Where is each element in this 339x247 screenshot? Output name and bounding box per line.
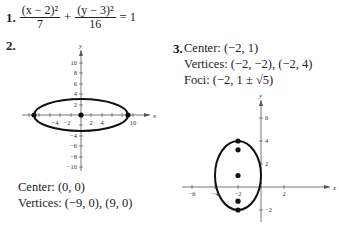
vertex-point <box>235 207 240 212</box>
y-tick-2: 2 <box>265 160 268 167</box>
y-tick-neg6: −6 <box>70 142 78 149</box>
x-axis-label: x <box>152 112 157 120</box>
center-point <box>235 173 240 178</box>
vertex-point <box>235 138 240 143</box>
x-tick-neg2: −2 <box>235 190 242 197</box>
problem-3-vertices: Vertices: (−2, −2), (−2, 4) <box>184 57 312 72</box>
y-tick-4: 4 <box>74 90 78 97</box>
x-tick-2: 2 <box>282 190 285 197</box>
y-tick-6: 6 <box>265 114 269 121</box>
y-tick-neg2: −2 <box>265 206 272 213</box>
problem-3-number: 3. <box>173 41 183 57</box>
problem-2-center: Center: (0, 0) <box>18 180 85 195</box>
x-tick-neg4: −4 <box>52 119 60 126</box>
y-tick-neg8: −8 <box>70 153 77 160</box>
y-tick-4: 4 <box>265 137 269 144</box>
vertex-point <box>31 112 36 117</box>
y-tick-6: 6 <box>74 80 78 87</box>
center-point <box>78 112 83 117</box>
problem-2-vertices: Vertices: (−9, 0), (9, 0) <box>18 196 132 211</box>
problem-3-center: Center: (−2, 1) <box>184 41 258 56</box>
y-tick-8: 8 <box>74 69 77 76</box>
problem-3-foci: Foci: (−2, 1 ± √5) <box>184 73 273 88</box>
vertex-point <box>125 112 130 117</box>
x-tick-neg6: −6 <box>189 190 197 197</box>
y-tick-2: 2 <box>74 101 77 108</box>
y-axis-label: y <box>258 92 263 100</box>
x-tick-neg2: −2 <box>64 119 71 126</box>
x-tick-2: 2 <box>89 119 92 126</box>
y-tick-neg4: −4 <box>70 132 78 139</box>
graph-problem-2: x y −4 −2 2 4 10 10 8 6 4 2 −4 −6 −8 −10 <box>0 0 170 180</box>
y-tick-neg10: −10 <box>67 163 77 170</box>
x-axis-label: x <box>332 184 337 192</box>
y-axis-label: y <box>78 42 83 50</box>
focus-point <box>235 147 240 152</box>
y-tick-10: 10 <box>71 59 78 66</box>
x-tick-10: 10 <box>130 119 137 126</box>
x-tick-4: 4 <box>100 119 104 126</box>
focus-point <box>235 199 240 204</box>
graph-problem-3: x y −6 −4 −2 2 6 4 2 −2 <box>170 90 339 247</box>
